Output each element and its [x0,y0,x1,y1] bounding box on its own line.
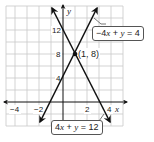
x-axis-label: x [114,104,119,114]
y-tick-8: 8 [56,50,61,59]
intersection-point [73,52,78,57]
equation-callout-1: −4x + y = 4 [92,26,144,41]
x-tick-4: 4 [107,105,112,114]
intersection-label: (1, 8) [78,49,99,59]
y-tick-12: 12 [52,26,61,35]
callout-pointer-1 [94,18,106,24]
x-tick-2: 2 [85,105,90,114]
equation-callout-2: 4x + y = 12 [51,120,103,135]
x-tick-neg2: −2 [34,105,44,114]
y-axis-label: y [66,6,71,16]
x-tick-neg4: −4 [10,105,20,114]
